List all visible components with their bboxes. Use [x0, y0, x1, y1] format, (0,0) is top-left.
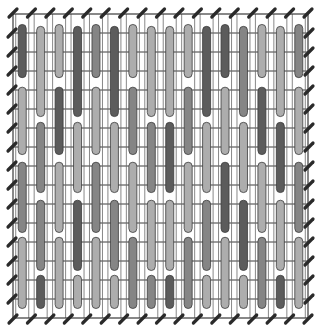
stitch: [258, 237, 266, 308]
stitch: [295, 237, 303, 308]
stitch: [166, 200, 174, 270]
stitch: [74, 275, 82, 308]
stitch: [221, 24, 229, 77]
stitch: [18, 24, 26, 77]
stitch: [129, 237, 137, 308]
stitch: [221, 237, 229, 308]
stitch: [276, 275, 284, 308]
stitch: [147, 122, 155, 192]
stitch: [276, 26, 284, 116]
stitch: [92, 237, 100, 308]
stitch: [239, 275, 247, 308]
stitch: [295, 24, 303, 77]
stitch: [37, 122, 45, 192]
stitch: [184, 87, 192, 154]
stitch: [166, 122, 174, 192]
stitch-diagram: [0, 0, 322, 334]
stitch: [239, 200, 247, 270]
stitch: [110, 275, 118, 308]
stitch: [55, 24, 63, 77]
stitch: [221, 162, 229, 232]
stitch: [276, 122, 284, 192]
stitch: [276, 200, 284, 270]
stitch: [166, 275, 174, 308]
stitch: [203, 122, 211, 192]
stitch: [92, 162, 100, 232]
stitch: [55, 237, 63, 308]
stitch: [37, 26, 45, 116]
stitch: [203, 275, 211, 308]
stitch: [166, 26, 174, 116]
stitch: [55, 162, 63, 232]
stitch: [239, 122, 247, 192]
stitch: [184, 162, 192, 232]
stitch: [18, 87, 26, 154]
stitch: [147, 26, 155, 116]
stitch: [110, 200, 118, 270]
stitch: [203, 200, 211, 270]
stitch: [258, 24, 266, 77]
stitch: [18, 237, 26, 308]
stitch: [147, 275, 155, 308]
stitch: [147, 200, 155, 270]
stitch: [295, 87, 303, 154]
stitch: [129, 87, 137, 154]
stitch: [55, 87, 63, 154]
stitch: [74, 26, 82, 116]
stitch: [258, 87, 266, 154]
stitch: [129, 162, 137, 232]
stitch: [221, 87, 229, 154]
stitch: [37, 200, 45, 270]
stitch: [129, 24, 137, 77]
stitch: [74, 122, 82, 192]
stitch: [184, 237, 192, 308]
stitch: [110, 122, 118, 192]
stitch: [110, 26, 118, 116]
stitch: [203, 26, 211, 116]
stitch: [239, 26, 247, 116]
stitch: [37, 275, 45, 308]
stitch: [18, 162, 26, 232]
stitch: [92, 87, 100, 154]
stitch: [92, 24, 100, 77]
stitch: [74, 200, 82, 270]
stitch: [295, 162, 303, 232]
stitch: [184, 24, 192, 77]
stitch: [258, 162, 266, 232]
